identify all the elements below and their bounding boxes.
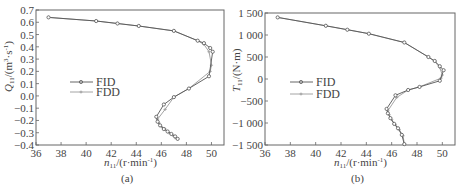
y-tick-label: 0.4 [20,41,34,53]
plus-marker-icon [80,91,83,94]
y-tick-label: −1 000 [232,117,263,129]
data-point [324,24,327,27]
x-tick-label: 46 [156,147,168,159]
figure: 36384042444648500.70.60.50.40.30.20.10.0… [0,0,459,191]
data-point [438,65,441,68]
x-tick-label: 46 [386,147,398,159]
x-tick-label: 40 [81,147,93,159]
chart-panel-a: 36384042444648500.70.60.50.40.30.20.10.0… [2,4,224,185]
data-point [386,112,389,115]
y-tick-label: 1 500 [238,7,263,19]
data-point [433,59,436,62]
panel-caption: (a) [121,172,134,185]
y-tick-label: 500 [247,51,264,63]
y-tick-label: −500 [240,95,263,107]
data-point [156,120,159,123]
data-point [394,94,397,97]
x-tick-label: 38 [285,147,297,159]
y-tick-label: 0.3 [20,53,34,65]
data-point [155,115,158,118]
y-tick-label: −0.1 [14,102,34,114]
y-tick-label: 0.5 [20,29,34,41]
axis-ticks: 36384042444648501 5001 0005000−500−1 000… [232,7,448,159]
data-point [166,130,169,133]
plot-frame [265,13,455,145]
data-point [400,133,403,136]
y-tick-label: 0.1 [20,78,34,90]
y-tick-label: 0.0 [20,90,34,102]
data-point [162,127,165,130]
y-tick-label: −0.4 [14,139,34,151]
data-point [209,46,212,49]
data-point [47,16,50,19]
data-point [202,42,205,45]
x-tick-label: 40 [310,147,322,159]
y-tick-label: 0.6 [20,16,34,28]
y-tick-label: 1 000 [238,29,263,41]
data-point [211,50,214,53]
plus-marker-icon [300,93,303,96]
x-tick-label: 48 [181,147,193,159]
x-tick-label: 38 [56,147,68,159]
data-point [393,122,396,125]
data-point [346,28,349,31]
data-point [187,87,190,90]
y-tick-label: 0.2 [20,65,34,77]
plot-frame [36,10,224,145]
chart-panel-b: 36384042444648501 5001 0005000−500−1 000… [230,7,455,185]
data-point [276,16,279,19]
data-point [442,69,445,72]
data-point [158,124,161,127]
data-point [407,88,410,91]
legend: FID FDD [70,75,120,99]
legend: FID FDD [290,75,340,101]
data-point [385,107,388,110]
y-tick-label: 0 [258,73,264,85]
data-point [172,29,175,32]
plot-series [47,16,214,141]
data-point [438,79,441,82]
series-line-fdd [49,17,212,138]
y-tick-label: −1 500 [232,139,263,151]
data-point [95,19,98,22]
data-point [396,127,399,130]
data-point [367,32,370,35]
data-point [170,132,173,135]
data-point [172,96,175,99]
x-tick-label: 50 [206,147,218,159]
data-point [389,117,392,120]
data-point [418,85,421,88]
legend-label-fdd: FDD [316,87,340,101]
data-point [427,55,430,58]
data-point [176,137,179,140]
x-tick-label: 48 [412,147,424,159]
panel-caption: (b) [351,172,364,185]
data-point [207,75,210,78]
legend-label-fdd: FDD [96,85,120,99]
x-tick-label: 50 [437,147,449,159]
data-point [196,39,199,42]
y-tick-label: −0.2 [14,114,34,126]
data-point [137,24,140,27]
series-line-fid [49,17,213,138]
axis-ticks: 36384042444648500.70.60.50.40.30.20.10.0… [14,4,217,159]
data-point [403,41,406,44]
series-line-fid [278,17,444,144]
y-axis-label: Q11/(m3·s-1) [2,41,16,92]
y-tick-label: −0.3 [14,127,34,139]
data-point [116,22,119,25]
data-point [403,143,406,146]
data-point [162,103,165,106]
y-axis-label: T11/(N·m) [230,48,244,92]
y-tick-label: 0.7 [20,4,34,16]
